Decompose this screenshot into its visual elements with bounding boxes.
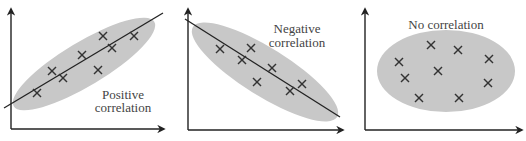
correlation-diagram: Positive correlation Negative correlatio… (0, 0, 526, 141)
annotation-label: No correlation (408, 17, 484, 32)
panel-negative-correlation: Negative correlation (180, 7, 350, 138)
panel-positive-correlation: Positive correlation (2, 3, 165, 129)
annotation-label: correlation (95, 100, 152, 115)
panel-no-correlation: No correlation (365, 9, 522, 130)
no-correlation-ellipse (377, 30, 515, 112)
negative-cluster-ellipse (180, 7, 350, 138)
annotation-label: correlation (269, 35, 326, 50)
annotation-label: Negative (274, 21, 321, 36)
